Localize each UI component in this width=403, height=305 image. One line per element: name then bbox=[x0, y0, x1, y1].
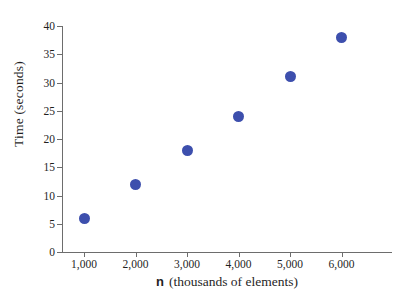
y-axis-tick-label: 35 bbox=[25, 48, 55, 60]
x-axis-title: n(thousands of elements) bbox=[62, 274, 392, 290]
x-axis-tick bbox=[136, 253, 137, 257]
x-axis-tick bbox=[342, 253, 343, 257]
y-axis-tick-label: 40 bbox=[25, 20, 55, 32]
x-axis-tick bbox=[187, 253, 188, 257]
x-axis-tick bbox=[290, 253, 291, 257]
y-axis-tick-label: 0 bbox=[25, 246, 55, 258]
y-axis-tick-label: 20 bbox=[25, 133, 55, 145]
x-axis-line bbox=[62, 252, 392, 253]
y-axis-title: Time (seconds) bbox=[11, 34, 27, 174]
y-axis-tick-label: 5 bbox=[25, 218, 55, 230]
data-point bbox=[285, 71, 296, 82]
scatter-chart-figure: 1,0002,0003,0004,0005,0006,000 051015202… bbox=[0, 0, 403, 305]
x-axis-variable-label: n bbox=[156, 274, 164, 289]
data-point bbox=[182, 145, 193, 156]
x-axis-tick-label: 6,000 bbox=[312, 258, 372, 271]
data-point bbox=[79, 213, 90, 224]
plot-area bbox=[62, 26, 392, 252]
y-axis-tick-label: 30 bbox=[25, 77, 55, 89]
data-point bbox=[130, 179, 141, 190]
x-axis-units-label: (thousands of elements) bbox=[169, 274, 298, 289]
y-axis-tick-label: 15 bbox=[25, 161, 55, 173]
y-axis-tick bbox=[57, 252, 62, 253]
data-point bbox=[336, 32, 347, 43]
x-axis-tick bbox=[84, 253, 85, 257]
x-axis-tick bbox=[239, 253, 240, 257]
data-point bbox=[233, 111, 244, 122]
y-axis-tick-label: 25 bbox=[25, 105, 55, 117]
y-axis-tick-label: 10 bbox=[25, 190, 55, 202]
